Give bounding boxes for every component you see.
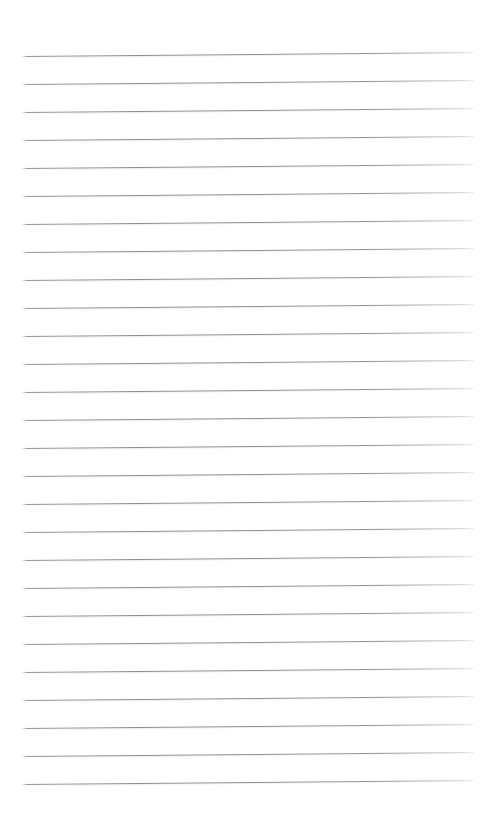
paper-page (0, 0, 496, 816)
writing-area[interactable] (22, 40, 475, 796)
